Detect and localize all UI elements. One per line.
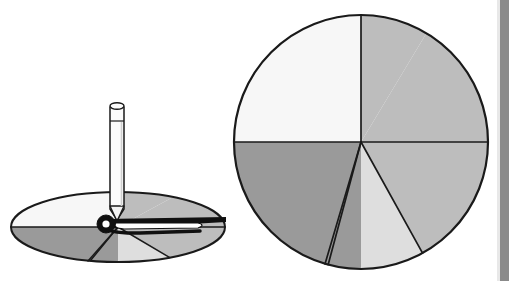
figure-canvas (0, 0, 509, 281)
spinner-assembly (11, 103, 226, 262)
pie-chart (234, 15, 488, 269)
pie-sector-left-lower (234, 15, 361, 142)
needle-hub-hole (102, 220, 109, 227)
pencil (110, 103, 124, 221)
page-edge-shadow (500, 0, 509, 281)
illustration-svg (0, 0, 509, 281)
pencil-top-ellipse (110, 103, 124, 109)
